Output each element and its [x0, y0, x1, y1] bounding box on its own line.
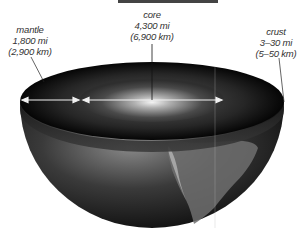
mantle-name: mantle	[8, 24, 52, 35]
crust-miles: 3–30 mi	[254, 37, 298, 48]
top-edge-strip	[118, 0, 218, 3]
mantle-label: mantle 1,800 mi (2,900 km)	[8, 24, 52, 57]
crust-name: crust	[254, 26, 298, 37]
core-km: (6,900 km)	[126, 31, 178, 42]
mantle-leader	[31, 57, 44, 82]
crust-km: (5–50 km)	[254, 48, 298, 59]
core-name: core	[126, 9, 178, 20]
mantle-km: (2,900 km)	[8, 46, 52, 57]
core-miles: 4,300 mi	[126, 20, 178, 31]
mantle-miles: 1,800 mi	[8, 35, 52, 46]
core-label: core 4,300 mi (6,900 km)	[126, 9, 178, 42]
crust-label: crust 3–30 mi (5–50 km)	[254, 26, 298, 59]
